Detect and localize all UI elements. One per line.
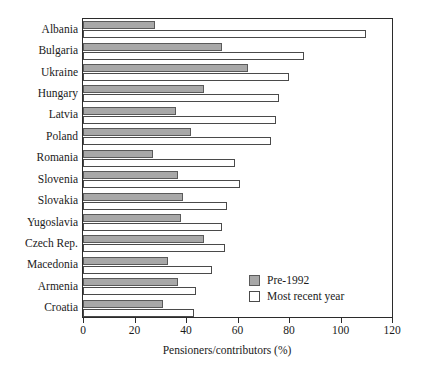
bar-yugoslavia-pre-1992 xyxy=(83,214,181,222)
bar-ukraine-most-recent-year xyxy=(83,73,289,81)
bar-croatia-most-recent-year xyxy=(83,309,194,317)
legend-swatch-most-recent-year-icon xyxy=(249,291,260,302)
bar-group xyxy=(83,40,392,61)
bar-group xyxy=(83,148,392,169)
bar-macedonia-most-recent-year xyxy=(83,266,212,274)
bar-group xyxy=(83,105,392,126)
legend-label-pre-1992: Pre-1992 xyxy=(267,274,309,287)
x-axis-title: Pensioners/contributors (%) xyxy=(0,344,426,356)
y-axis-label-poland: Poland xyxy=(0,130,78,142)
bar-albania-most-recent-year xyxy=(83,30,366,38)
bar-bulgaria-most-recent-year xyxy=(83,52,304,60)
bar-slovenia-pre-1992 xyxy=(83,171,178,179)
y-axis-category-labels: AlbaniaBulgariaUkraineHungaryLatviaPolan… xyxy=(0,18,78,318)
bar-group xyxy=(83,83,392,104)
bar-yugoslavia-most-recent-year xyxy=(83,223,222,231)
x-axis-tick-label-20: 20 xyxy=(115,323,155,337)
y-axis-label-hungary: Hungary xyxy=(0,87,78,99)
bar-romania-pre-1992 xyxy=(83,150,153,158)
bar-group xyxy=(83,19,392,40)
bar-hungary-pre-1992 xyxy=(83,85,204,93)
bar-albania-pre-1992 xyxy=(83,21,155,29)
y-axis-label-bulgaria: Bulgaria xyxy=(0,44,78,56)
bar-croatia-pre-1992 xyxy=(83,300,163,308)
bar-latvia-most-recent-year xyxy=(83,116,276,124)
bar-poland-pre-1992 xyxy=(83,128,191,136)
x-axis-tick-label-120: 120 xyxy=(372,323,412,337)
bar-chart-figure: AlbaniaBulgariaUkraineHungaryLatviaPolan… xyxy=(0,0,426,370)
y-axis-label-slovenia: Slovenia xyxy=(0,173,78,185)
x-axis-tick-label-100: 100 xyxy=(321,323,361,337)
bar-slovakia-pre-1992 xyxy=(83,193,183,201)
legend-label-most-recent-year: Most recent year xyxy=(267,290,344,303)
y-axis-label-macedonia: Macedonia xyxy=(0,258,78,270)
y-axis-label-croatia: Croatia xyxy=(0,301,78,313)
y-axis-label-latvia: Latvia xyxy=(0,108,78,120)
bar-czech-rep-pre-1992 xyxy=(83,235,204,243)
bar-ukraine-pre-1992 xyxy=(83,64,248,72)
bar-armenia-most-recent-year xyxy=(83,287,196,295)
bar-hungary-most-recent-year xyxy=(83,94,279,102)
bar-group xyxy=(83,62,392,83)
y-axis-label-ukraine: Ukraine xyxy=(0,66,78,78)
y-axis-label-albania: Albania xyxy=(0,23,78,35)
bar-bulgaria-pre-1992 xyxy=(83,43,222,51)
bar-macedonia-pre-1992 xyxy=(83,257,168,265)
bar-romania-most-recent-year xyxy=(83,159,235,167)
y-axis-label-czech-rep: Czech Rep. xyxy=(0,237,78,249)
x-axis-tick-labels: 020406080100120 xyxy=(0,323,426,339)
bar-slovakia-most-recent-year xyxy=(83,202,227,210)
legend-item-pre-1992: Pre-1992 xyxy=(249,272,369,288)
bar-group xyxy=(83,233,392,254)
legend-swatch-pre-1992-icon xyxy=(249,275,260,286)
bar-group xyxy=(83,190,392,211)
x-axis-tick-label-40: 40 xyxy=(166,323,206,337)
x-axis-tick-label-0: 0 xyxy=(63,323,103,337)
bar-group xyxy=(83,126,392,147)
x-axis-tick-label-60: 60 xyxy=(218,323,258,337)
bar-latvia-pre-1992 xyxy=(83,107,176,115)
y-axis-label-romania: Romania xyxy=(0,151,78,163)
bar-armenia-pre-1992 xyxy=(83,278,178,286)
bar-slovenia-most-recent-year xyxy=(83,180,240,188)
bar-poland-most-recent-year xyxy=(83,137,271,145)
legend-item-most-recent-year: Most recent year xyxy=(249,288,369,304)
x-axis-tick-label-80: 80 xyxy=(269,323,309,337)
y-axis-label-armenia: Armenia xyxy=(0,280,78,292)
bar-group xyxy=(83,169,392,190)
y-axis-label-yugoslavia: Yugoslavia xyxy=(0,216,78,228)
y-axis-label-slovakia: Slovakia xyxy=(0,194,78,206)
chart-legend: Pre-1992 Most recent year xyxy=(249,272,369,304)
bar-group xyxy=(83,212,392,233)
bar-czech-rep-most-recent-year xyxy=(83,244,225,252)
